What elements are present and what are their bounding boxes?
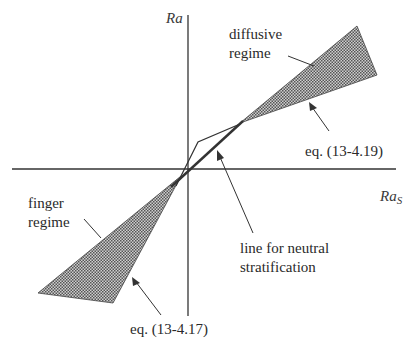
stability-diagram: Ra RaS diffusive regime finger regime eq… [0, 0, 414, 347]
neutral-arrow [217, 150, 253, 233]
finger-label-line2: regime [28, 214, 70, 230]
diffusive-label-line2: regime [229, 45, 271, 61]
eq-upper-label: eq. (13-4.19) [305, 143, 383, 160]
finger-leader-line [84, 219, 101, 238]
eq-lower-label: eq. (13-4.17) [130, 321, 208, 338]
eq-upper-arrow [309, 102, 329, 131]
diffusive-leader-line [288, 56, 314, 66]
eq-lower-arrow [132, 277, 161, 315]
finger-label-line1: finger [28, 195, 64, 211]
neutral-stratification-line [171, 121, 243, 187]
x-axis-label: RaS [379, 188, 403, 206]
diffusive-label-line1: diffusive [229, 26, 282, 42]
y-axis-label: Ra [165, 10, 183, 26]
neutral-label-line2: stratification [240, 259, 316, 275]
neutral-label-line1: line for neutral [240, 240, 329, 256]
